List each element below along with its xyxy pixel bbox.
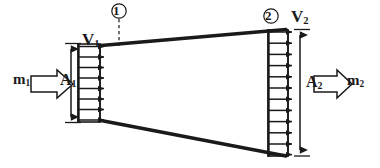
inlet-velocity-subscript: 1 (94, 38, 99, 49)
inlet-profile-box (78, 44, 100, 122)
inlet-area-label: A1 (60, 72, 77, 89)
station-1-label: 1 (113, 4, 120, 17)
outlet-velocity-profile (268, 29, 292, 157)
station-2-label: 2 (265, 9, 272, 22)
inlet-velocity-profile (78, 43, 104, 123)
nozzle-bottom-wall (101, 121, 286, 157)
outlet-velocity-subscript: 2 (303, 15, 308, 26)
outlet-area-label: A2 (306, 74, 323, 91)
diagram-canvas: V1 A1 m1 V2 A2 m2 1 2 (0, 0, 380, 168)
inlet-area-subscript: 1 (72, 78, 77, 89)
outlet-massflow-label: m2 (347, 73, 364, 89)
dimension-a2 (294, 30, 310, 157)
outlet-velocity-label: V2 (291, 8, 309, 27)
inlet-massflow-label: m1 (13, 72, 30, 88)
outlet-profile-box (268, 30, 288, 156)
nozzle-top-wall (101, 30, 286, 46)
outlet-area-subscript: 2 (318, 80, 323, 91)
nozzle-walls (101, 30, 286, 157)
nozzle-control-volume-svg (0, 0, 380, 168)
inlet-velocity-label: V1 (82, 31, 100, 50)
inlet-massflow-subscript: 1 (26, 78, 31, 88)
outlet-massflow-subscript: 2 (360, 79, 365, 89)
